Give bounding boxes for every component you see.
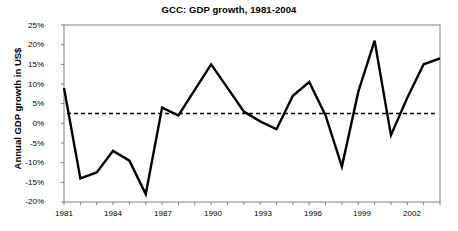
plot-area: [0, 0, 458, 231]
chart-figure: GCC: GDP growth, 1981-2004 Annual GDP gr…: [0, 0, 458, 231]
